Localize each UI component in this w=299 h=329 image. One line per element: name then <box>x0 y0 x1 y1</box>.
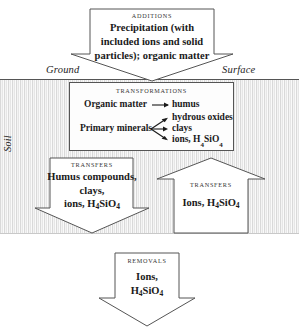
tr-mid: SiO <box>219 197 236 208</box>
transformations-clays: clays <box>172 123 192 133</box>
rm-sub1: 4 <box>139 289 143 298</box>
transfers-up-arrow-shape <box>156 157 266 234</box>
tr-sub2: 4 <box>236 201 240 210</box>
transfers-down-line-3: ions, H4SiO4 <box>34 198 150 209</box>
rm-pre: H <box>131 285 139 296</box>
transfers-up-line-1: Ions, H4SiO4 <box>156 197 266 208</box>
tr-pre: Ions, H <box>182 197 215 208</box>
additions-arrow: ADDITIONS Precipitation (with included i… <box>70 8 234 82</box>
tf-ions-pre: ions, H <box>172 134 201 144</box>
additions-line-1: Precipitation (with <box>70 22 234 33</box>
rm-sub2: 4 <box>160 289 164 298</box>
tl-sub2: 4 <box>116 202 120 211</box>
transformations-primary-minerals: Primary minerals <box>80 123 152 133</box>
removals-arrow: REMOVALS Ions, H4SiO4 <box>98 252 196 327</box>
tl-mid: SiO <box>99 198 116 209</box>
transfers-up-arrow: TRANSFERS Ions, H4SiO4 <box>156 157 266 234</box>
tl-pre: ions, H <box>64 198 96 209</box>
transformations-humus: humus <box>172 99 199 109</box>
transfers-down-line-1: Humus compounds, <box>34 171 150 182</box>
transformations-ions-silicic-acid: ions, H4SiO4 <box>172 134 223 147</box>
removals-heading: REMOVALS <box>98 257 196 264</box>
additions-heading: ADDITIONS <box>70 12 234 19</box>
tl-sub1: 4 <box>96 202 100 211</box>
removals-line-1: Ions, <box>98 271 196 282</box>
transformations-organic-matter: Organic matter <box>84 99 147 109</box>
tf-ions-sub1: 4 <box>201 141 205 149</box>
rm-mid: SiO <box>143 285 160 296</box>
soil-process-diagram: Ground Surface Soil ADDITIONS Precipitat… <box>0 0 299 329</box>
additions-line-2: included ions and solid <box>70 36 234 47</box>
transformations-box: TRANSFORMATIONS Organic matter Primary m… <box>69 82 234 151</box>
tf-ions-sub2: 4 <box>219 141 223 149</box>
transfers-down-arrow: TRANSFERS Humus compounds, clays, ions, … <box>34 157 150 234</box>
transformations-hydrous-oxides: hydrous oxides <box>172 112 233 122</box>
transfers-up-heading: TRANSFERS <box>156 181 266 188</box>
transfers-down-heading: TRANSFERS <box>34 161 150 168</box>
tr-sub1: 4 <box>215 201 219 210</box>
soil-label: Soil <box>2 135 13 151</box>
additions-line-3: particles); organic matter <box>70 50 234 61</box>
transfers-down-line-2: clays, <box>34 185 150 196</box>
tf-ions-mid: SiO <box>204 134 219 144</box>
removals-line-2: H4SiO4 <box>98 285 196 296</box>
